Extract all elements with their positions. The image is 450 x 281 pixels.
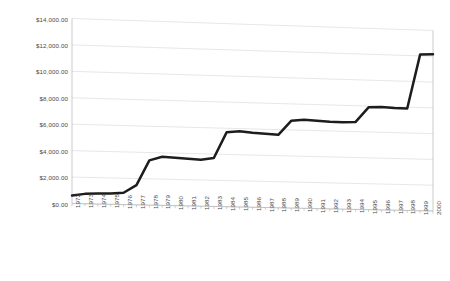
x-axis-tick-label: 1983	[216, 196, 223, 210]
x-axis-tick-label: 1979	[164, 195, 171, 209]
x-axis-tick-label: 1994	[358, 199, 365, 213]
x-axis-tick-label: 1977	[139, 195, 146, 209]
x-axis-tick-label: 1995	[371, 199, 378, 213]
x-axis-tick-label: 1975	[113, 194, 120, 208]
x-axis-tick-label: 1976	[126, 194, 133, 208]
x-axis-tick-label: 1999	[422, 201, 429, 215]
x-axis-tick-label: 1998	[409, 200, 416, 214]
gridline	[72, 45, 433, 56]
x-axis-tick-label: 1989	[293, 198, 300, 212]
x-axis-tick-label: 1985	[242, 197, 249, 211]
x-axis-tick-label: 1984	[229, 197, 236, 211]
x-axis-tick-label: 1980	[177, 195, 184, 209]
x-axis-tick-label: 1973	[87, 194, 94, 208]
x-axis-tick-label: 1997	[397, 200, 404, 214]
chart-plot-area	[0, 0, 450, 281]
x-axis-tick-label: 1981	[190, 196, 197, 210]
x-axis-tick-label: 1990	[306, 198, 313, 212]
gridlines	[72, 19, 433, 212]
x-axis-tick-label: 1982	[203, 196, 210, 210]
axis-lines	[72, 19, 433, 212]
gridline	[72, 71, 433, 82]
x-axis-tick-label: 1972	[74, 193, 81, 207]
x-axis-tick-label: 1987	[268, 197, 275, 211]
data-series-line	[72, 54, 433, 195]
gridline	[72, 151, 433, 160]
gridline	[72, 19, 433, 31]
x-axis-tick-label: 1996	[384, 200, 391, 214]
x-axis-tick-label: 1974	[100, 194, 107, 208]
x-axis-tick-label: 1988	[280, 198, 287, 212]
chart-container: $0.00$2,000.00$4,000.00$6,000.00$8,000.0…	[0, 0, 450, 281]
x-axis-tick-label: 2000	[435, 201, 442, 215]
x-axis-tick-label: 1978	[152, 195, 159, 209]
x-axis-tick-label: 1992	[332, 199, 339, 213]
gridline	[72, 177, 433, 185]
x-axis-tick-label: 1986	[255, 197, 262, 211]
x-axis-tick-label: 1993	[345, 199, 352, 213]
x-axis-tick-label: 1991	[319, 198, 326, 212]
